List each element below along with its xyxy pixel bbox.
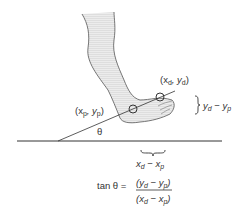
proximal-point-label: (xp, yp)	[75, 105, 104, 117]
formula-denominator: (xd − xp)	[136, 193, 170, 205]
theta-label: θ	[97, 126, 102, 137]
dx-brace	[141, 150, 165, 156]
dx-label: xd − xp	[136, 158, 164, 170]
formula-numerator: (yd − yp)	[136, 177, 170, 189]
formula-lhs: tan θ =	[97, 180, 126, 191]
foot-angle-diagram: (xd, yd) (xp, yp) yd − yp θ xd − xp tan …	[0, 0, 241, 222]
distal-point-label: (xd, yd)	[160, 74, 189, 86]
dy-brace	[195, 96, 200, 114]
dy-label: yd − yp	[203, 100, 231, 112]
